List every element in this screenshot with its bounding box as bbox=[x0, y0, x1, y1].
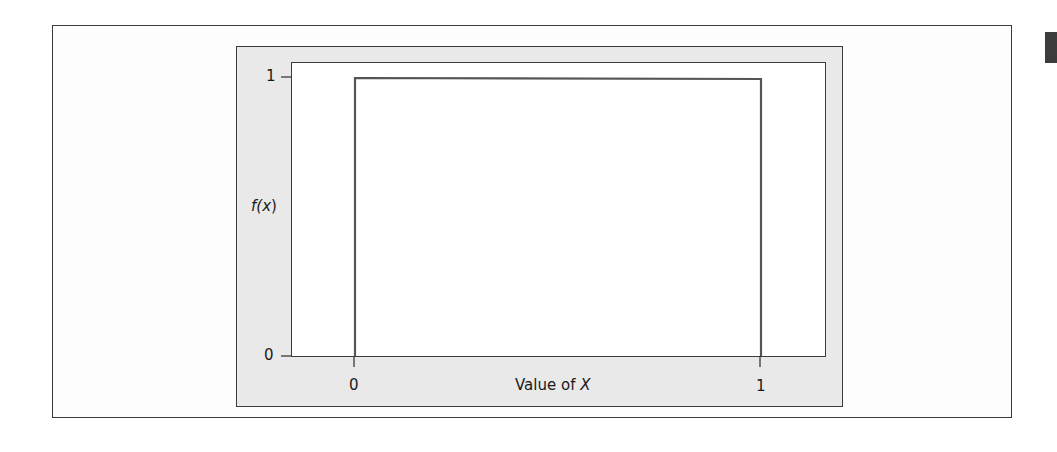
x-tick-label-1: 1 bbox=[756, 379, 766, 394]
x-axis-label-var: X bbox=[580, 376, 590, 394]
y-tick-label-0: 0 bbox=[264, 348, 274, 363]
y-axis-label: f(x) bbox=[251, 199, 277, 214]
density-line bbox=[355, 78, 761, 356]
y-axis-label-close: ) bbox=[271, 197, 277, 215]
y-tick-label-1: 1 bbox=[266, 69, 276, 84]
x-axis-label-prefix: Value of bbox=[515, 376, 580, 394]
x-axis-label: Value of X bbox=[515, 378, 590, 393]
x-tick-label-0: 0 bbox=[349, 378, 359, 393]
y-axis-label-func: f( bbox=[251, 197, 262, 215]
y-axis-label-var: x bbox=[262, 197, 271, 215]
